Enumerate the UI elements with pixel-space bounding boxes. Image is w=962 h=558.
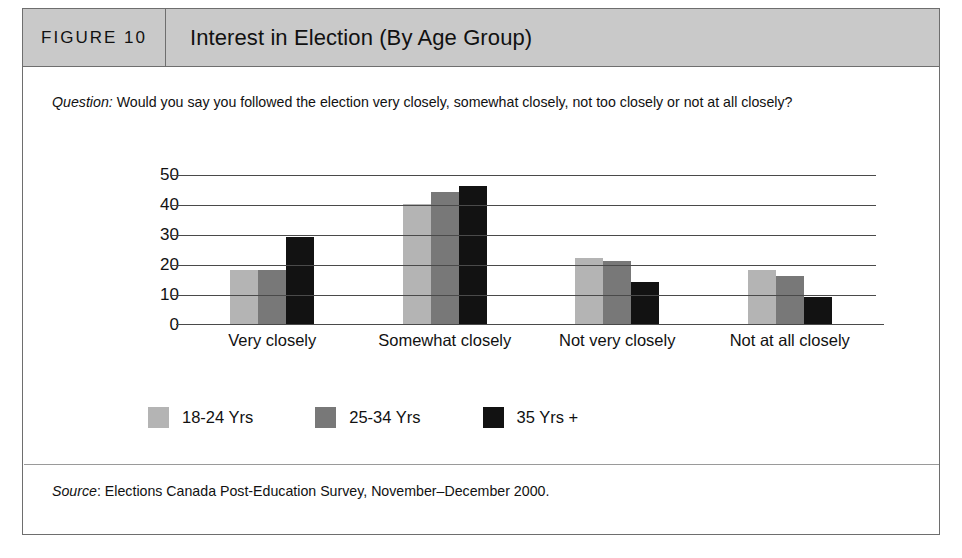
bar: [575, 258, 603, 324]
axis-tick-mark: [170, 175, 186, 176]
bar-group: [186, 174, 359, 324]
bar: [603, 261, 631, 324]
chart-legend: 18-24 Yrs25-34 Yrs35 Yrs +: [148, 407, 640, 428]
legend-label: 25-34 Yrs: [349, 408, 420, 427]
plot-area: [186, 175, 876, 325]
bar: [776, 276, 804, 324]
legend-item[interactable]: 25-34 Yrs: [315, 407, 420, 428]
gridline: [186, 235, 876, 236]
legend-swatch-icon: [483, 407, 504, 428]
axis-tick-mark: [170, 265, 186, 266]
source-text: : Elections Canada Post-Education Survey…: [97, 483, 549, 499]
bar: [403, 204, 431, 324]
source-label: Source: [52, 483, 97, 499]
y-axis: 50403020100: [123, 175, 179, 325]
bar-group: [704, 174, 877, 324]
axis-tick-mark: [170, 205, 186, 206]
question-block: Question: Would you say you followed the…: [52, 92, 910, 113]
gridline: [186, 175, 876, 176]
figure-title: Interest in Election (By Age Group): [166, 25, 939, 51]
section-divider: [24, 464, 939, 465]
figure-header: FIGURE 10 Interest in Election (By Age G…: [23, 9, 939, 67]
legend-swatch-icon: [148, 407, 169, 428]
figure-number: FIGURE 10: [23, 9, 166, 66]
bar: [459, 186, 487, 324]
bar: [804, 297, 832, 324]
legend-label: 35 Yrs +: [517, 408, 579, 427]
category-label: Very closely: [186, 331, 359, 350]
bar: [286, 237, 314, 324]
source-note: Source: Elections Canada Post-Education …: [52, 483, 549, 499]
figure-box: FIGURE 10 Interest in Election (By Age G…: [22, 8, 940, 535]
chart-area: 50403020100 Very closelySomewhat closely…: [23, 175, 939, 390]
legend-item[interactable]: 18-24 Yrs: [148, 407, 253, 428]
legend-swatch-icon: [315, 407, 336, 428]
bar: [230, 270, 258, 324]
legend-item[interactable]: 35 Yrs +: [483, 407, 579, 428]
bar-group: [359, 174, 532, 324]
bar: [431, 192, 459, 324]
gridline: [186, 205, 876, 206]
category-labels: Very closelySomewhat closelyNot very clo…: [186, 331, 876, 350]
category-label: Somewhat closely: [359, 331, 532, 350]
question-text: Would you say you followed the election …: [113, 94, 793, 110]
gridline: [186, 265, 876, 266]
gridline: [186, 295, 876, 296]
bar-groups: [186, 174, 876, 324]
y-axis-tick-label: 0: [123, 315, 179, 335]
question-label: Question:: [52, 94, 113, 110]
figure-page: FIGURE 10 Interest in Election (By Age G…: [0, 0, 962, 558]
bar: [748, 270, 776, 324]
axis-tick-mark: [170, 295, 186, 296]
category-label: Not very closely: [531, 331, 704, 350]
x-axis-line: [176, 324, 884, 326]
bar: [258, 270, 286, 324]
bar: [631, 282, 659, 324]
axis-tick-mark: [170, 235, 186, 236]
category-label: Not at all closely: [704, 331, 877, 350]
legend-label: 18-24 Yrs: [182, 408, 253, 427]
bar-group: [531, 174, 704, 324]
